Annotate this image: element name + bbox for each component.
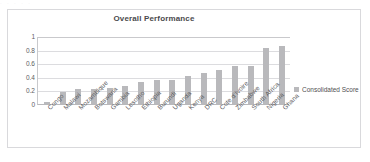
bar-slot: [39, 36, 55, 104]
y-axis-labels: 10.80.60.40.20: [14, 32, 35, 110]
legend-swatch-consolidated-score: [294, 87, 299, 92]
bar[interactable]: [216, 70, 222, 104]
chart-container: Overall Performance 10.80.60.40.20 Congo…: [7, 9, 361, 148]
y-axis-tick: 0.2: [14, 87, 35, 95]
page-bleed-artifact: · · · · ·: [0, 0, 370, 8]
y-axis-tick: 0.6: [14, 60, 35, 68]
x-axis-labels: CongoMalawiMozambiqueBotswanaGambiaLesot…: [37, 106, 289, 150]
y-axis-tick: 0.8: [14, 47, 35, 55]
bar-slot: [212, 36, 228, 104]
y-axis-tick: 0.4: [14, 74, 35, 82]
y-axis-tick: 1: [14, 33, 35, 41]
chart-title: Overall Performance: [8, 14, 300, 23]
legend-label-consolidated-score: Consolidated Score: [302, 86, 359, 93]
chart-legend: Consolidated Score: [294, 86, 359, 93]
y-axis-tick: 0: [14, 101, 35, 109]
